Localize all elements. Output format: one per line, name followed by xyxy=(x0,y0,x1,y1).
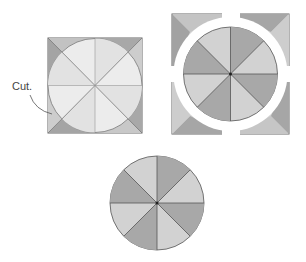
cut-label: Cut. xyxy=(12,80,32,92)
step3-circle xyxy=(110,156,204,250)
step2-circle xyxy=(184,27,278,121)
step1-square xyxy=(48,38,142,133)
diagram-canvas xyxy=(0,0,306,262)
step2-separated xyxy=(168,10,294,138)
